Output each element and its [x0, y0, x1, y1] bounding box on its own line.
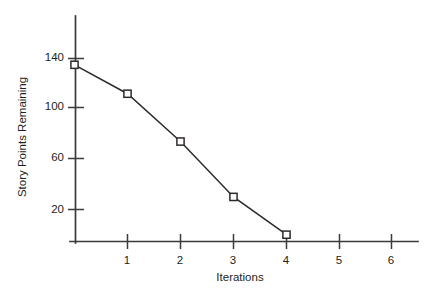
burndown-series-line — [75, 65, 287, 235]
data-point-marker — [71, 61, 78, 68]
chart-plot-area — [0, 0, 440, 301]
y-tick-label-140: 140 — [38, 52, 64, 64]
burndown-series-markers — [71, 61, 290, 238]
x-tick-label-5: 5 — [336, 255, 342, 267]
data-point-marker — [177, 138, 184, 145]
data-point-marker — [124, 90, 131, 97]
y-tick-label-20: 20 — [38, 204, 64, 216]
data-point-marker — [283, 231, 290, 238]
y-tick-label-60: 60 — [38, 152, 64, 164]
data-point-marker — [230, 193, 237, 200]
y-tick-label-100: 100 — [38, 101, 64, 113]
x-tick-label-3: 3 — [230, 255, 236, 267]
x-axis-title: Iterations — [216, 271, 263, 283]
x-tick-label-4: 4 — [283, 255, 289, 267]
x-tick-label-6: 6 — [388, 255, 394, 267]
x-tick-label-1: 1 — [124, 255, 130, 267]
y-axis-title: Story Points Remaining — [16, 77, 28, 197]
x-tick-label-2: 2 — [177, 255, 183, 267]
burndown-chart: 140 100 60 20 1 2 3 4 5 6 Iterations Sto… — [0, 0, 440, 301]
